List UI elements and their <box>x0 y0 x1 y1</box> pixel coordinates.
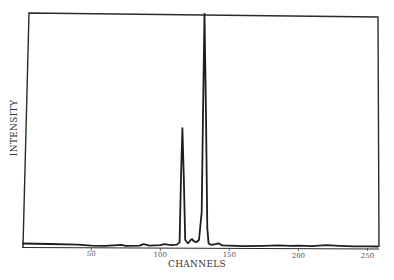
x-tick-label: 150 <box>223 251 236 259</box>
spectrum-line <box>22 14 378 247</box>
x-tick-label: 200 <box>292 252 305 260</box>
y-axis-label: INTENSITY <box>9 100 19 156</box>
x-tick-label: 250 <box>361 252 374 260</box>
spectrum-chart <box>0 0 394 280</box>
x-axis-baseline <box>22 248 379 250</box>
x-tick-label: 50 <box>87 250 96 258</box>
x-tick-label: 100 <box>154 251 167 259</box>
x-axis-label: CHANNELS <box>168 259 226 269</box>
